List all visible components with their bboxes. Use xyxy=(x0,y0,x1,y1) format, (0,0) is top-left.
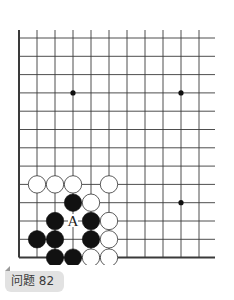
labels-layer: A xyxy=(68,213,79,229)
black-stone-icon xyxy=(64,249,81,265)
white-stone-icon xyxy=(100,249,117,265)
star-point-icon xyxy=(178,90,183,95)
black-stone-icon xyxy=(82,212,99,229)
star-point-icon xyxy=(178,200,183,205)
black-stone-icon xyxy=(28,231,45,248)
white-stone-icon xyxy=(100,176,117,193)
star-point-icon xyxy=(70,90,75,95)
white-stone-icon xyxy=(100,212,117,229)
black-stone-icon xyxy=(82,231,99,248)
problem-number-tag: 问题 82 xyxy=(5,271,64,292)
white-stone-icon xyxy=(28,176,45,193)
problem-label: 问题 82 xyxy=(11,274,54,288)
black-stone-icon xyxy=(64,194,81,211)
white-stone-icon xyxy=(82,194,99,211)
white-stone-icon xyxy=(46,176,63,193)
black-stone-icon xyxy=(46,231,63,248)
white-stone-icon xyxy=(82,249,99,265)
go-board-diagram: A xyxy=(0,0,234,265)
white-stone-icon xyxy=(64,176,81,193)
black-stone-icon xyxy=(46,212,63,229)
point-label-a: A xyxy=(68,213,79,229)
black-stone-icon xyxy=(46,249,63,265)
white-stone-icon xyxy=(100,231,117,248)
